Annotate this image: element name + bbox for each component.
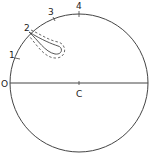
label-1: 1: [9, 50, 15, 60]
label-origin: O: [1, 79, 8, 89]
label-2: 2: [24, 23, 30, 33]
loop-path: [29, 32, 61, 54]
label-center: C: [76, 89, 82, 99]
label-4: 4: [76, 1, 82, 11]
circle-diagram: O C 1 2 3 4: [0, 0, 150, 159]
label-3: 3: [48, 7, 54, 17]
tick-1: [15, 58, 20, 59]
